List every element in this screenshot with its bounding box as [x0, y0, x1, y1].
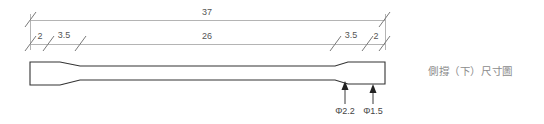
callout-phi-1-5: Φ1.5: [363, 84, 383, 116]
callout-label-phi-2-2: Φ2.2: [335, 106, 355, 116]
segment-label-35-right: 3.5: [345, 30, 358, 40]
callout-group: Φ2.2 Φ1.5: [335, 81, 383, 116]
segment-label-35-left: 3.5: [58, 30, 71, 40]
segment-label-2-right: 2: [373, 31, 378, 41]
segment-label-26-center: 26: [202, 31, 212, 41]
engineering-drawing-svg: 37 2 3.5 26 3.5 2 Φ2.2: [0, 0, 544, 124]
overall-dimension-group: 37: [25, 7, 390, 27]
part-profile-outline: [30, 62, 385, 85]
segment-label-2-left: 2: [37, 31, 42, 41]
overall-dimension-label: 37: [202, 7, 212, 17]
part-profile-group: [30, 62, 385, 85]
segment-dimension-group: 2 3.5 26 3.5 2: [25, 30, 390, 51]
callout-label-phi-1-5: Φ1.5: [363, 106, 383, 116]
arrow-head-phi-1-5: [370, 84, 377, 93]
drawing-caption: 側撐（下）尺寸圖: [428, 63, 513, 78]
callout-phi-2-2: Φ2.2: [335, 81, 355, 116]
dimension-drawing-canvas: 37 2 3.5 26 3.5 2 Φ2.2: [0, 0, 544, 124]
